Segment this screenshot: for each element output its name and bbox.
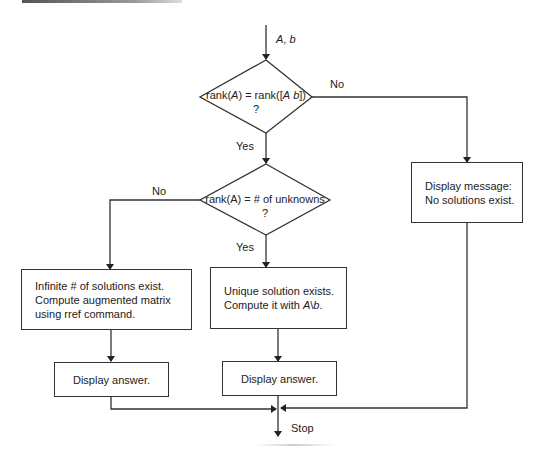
unique-line1: Unique solution exists.: [224, 284, 334, 298]
infinite-line2: Compute augmented matrix: [35, 293, 171, 307]
page-bottom-artifact: [255, 444, 335, 446]
unique-line2-suffix: .: [319, 299, 322, 311]
infinite-solutions-text: Infinite # of solutions exist. Compute a…: [35, 279, 171, 321]
no-solutions-text: Display message: No solutions exist.: [425, 179, 514, 207]
decision2-line2: ?: [200, 206, 330, 220]
unique-solution-text: Unique solution exists. Compute it with …: [224, 284, 334, 312]
no-solutions-line1: Display message:: [425, 179, 514, 193]
display-answer-left-box: Display answer.: [54, 362, 169, 397]
d1-part: ]): [299, 89, 306, 101]
display-answer-right-text: Display answer.: [241, 372, 318, 386]
display-answer-right-box: Display answer.: [222, 361, 337, 396]
decision1-text: rank(A) = rank([A b]) ?: [200, 88, 312, 116]
display-answer-left-text: Display answer.: [73, 373, 150, 387]
decision2-text: rank(A) = # of unknowns ?: [200, 192, 330, 220]
decision1-yes-label: Yes: [236, 140, 254, 152]
decision2-no-label: No: [152, 185, 166, 197]
decision1-line2: ?: [200, 102, 312, 116]
infinite-line3: using rref command.: [35, 307, 171, 321]
decision1-line1: rank(A) = rank([A b]): [200, 88, 312, 102]
unique-line2: Compute it with A\b.: [224, 298, 334, 312]
no-solutions-line2: No solutions exist.: [425, 193, 514, 207]
decision2-yes-label: Yes: [236, 241, 254, 253]
d1-part: rank(: [206, 89, 231, 101]
decision1-no-label: No: [330, 78, 344, 90]
input-b: b: [289, 33, 295, 45]
no-solutions-box: Display message: No solutions exist.: [411, 162, 523, 223]
input-label: A, b: [276, 33, 296, 45]
decision2-no-connector: [110, 200, 200, 269]
unique-solution-box: Unique solution exists. Compute it with …: [210, 267, 347, 329]
unique-line2-prefix: Compute it with: [224, 299, 303, 311]
decision2-line1: rank(A) = # of unknowns: [200, 192, 330, 206]
stop-label: Stop: [291, 422, 314, 434]
d1-part: ) = rank([: [238, 89, 282, 101]
infinite-solutions-box: Infinite # of solutions exist. Compute a…: [21, 269, 192, 330]
infinite-line1: Infinite # of solutions exist.: [35, 279, 171, 293]
d1-part: A: [283, 89, 290, 101]
decision1-no-connector: [312, 97, 467, 162]
